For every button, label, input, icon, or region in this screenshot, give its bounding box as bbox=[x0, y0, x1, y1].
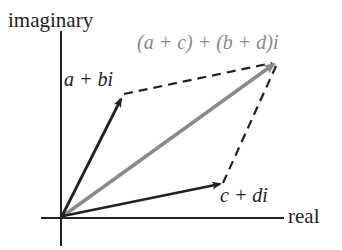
dashed-edge-top bbox=[124, 63, 272, 94]
vector-sum-label: (a + c) + (b + d)i bbox=[137, 31, 279, 54]
vector-a-bi-arrow bbox=[62, 99, 121, 216]
imaginary-axis-label: imaginary bbox=[8, 8, 94, 32]
real-axis-label: real bbox=[288, 204, 320, 228]
complex-addition-diagram: imaginary real a + bi c + di (a + c) + (… bbox=[0, 0, 342, 250]
vector-a-bi-label: a + bi bbox=[64, 68, 113, 90]
origin-point bbox=[61, 214, 66, 219]
vector-c-di-label: c + di bbox=[220, 184, 268, 206]
